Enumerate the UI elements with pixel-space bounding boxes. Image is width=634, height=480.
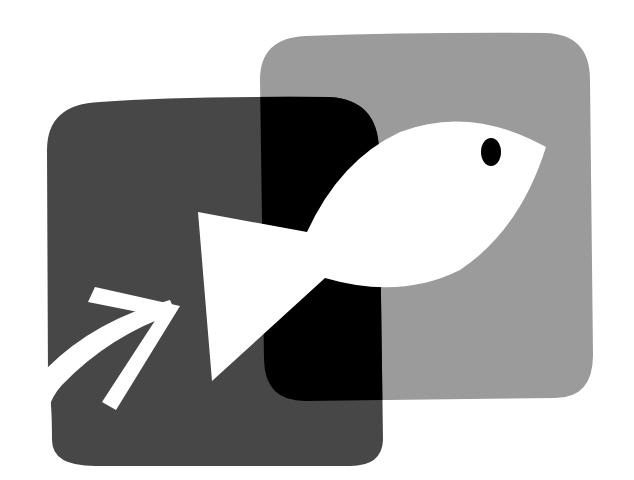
logo: Two overlapping rounded squares with a w… [0, 0, 634, 480]
fish-eye [481, 138, 501, 166]
